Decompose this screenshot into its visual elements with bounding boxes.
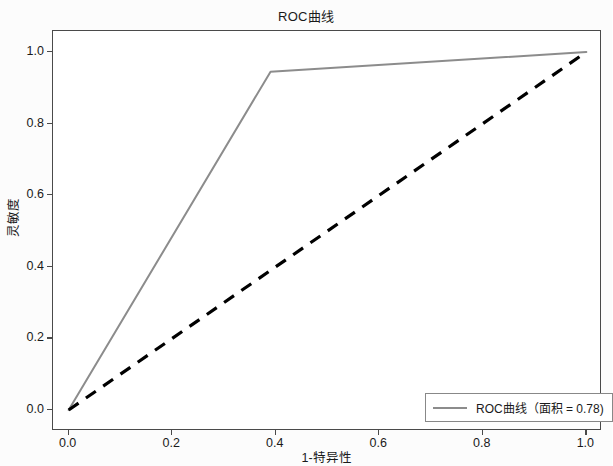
x-tick-mark [482, 430, 483, 435]
x-axis-label: 1-特异性 [52, 447, 601, 466]
y-tick-label: 0.0 [6, 402, 44, 416]
x-tick-mark [378, 430, 379, 435]
y-tick-label: 1.0 [6, 44, 44, 58]
plot-svg [53, 31, 602, 431]
plot-area [52, 30, 601, 430]
legend-swatch-roc-curve [433, 407, 467, 409]
y-tick-label: 0.2 [6, 330, 44, 344]
y-tick-mark [47, 123, 52, 124]
y-tick-mark [47, 51, 52, 52]
x-tick-mark [585, 430, 586, 435]
chance-diagonal-line [69, 52, 587, 410]
legend: ROC曲线（面积 = 0.78) [425, 393, 613, 422]
y-axis-label: 灵敏度 [3, 188, 22, 248]
y-tick-label: 0.4 [6, 259, 44, 273]
chart-title: ROC曲线 [0, 6, 612, 25]
y-tick-mark [47, 194, 52, 195]
y-tick-label: 0.8 [6, 116, 44, 130]
legend-label-roc-curve: ROC曲线（面积 = 0.78) [476, 399, 604, 416]
x-tick-mark [68, 430, 69, 435]
y-tick-mark [47, 266, 52, 267]
y-tick-mark [47, 337, 52, 338]
y-tick-mark [47, 409, 52, 410]
x-tick-mark [171, 430, 172, 435]
x-tick-mark [275, 430, 276, 435]
